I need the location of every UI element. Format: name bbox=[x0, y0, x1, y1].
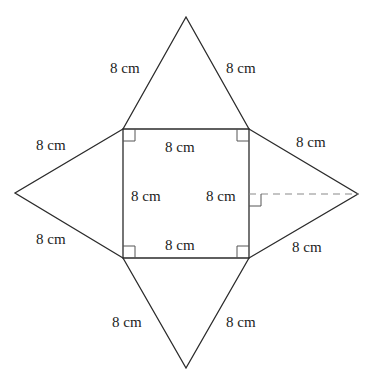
right-angle-mark-bottom-right bbox=[237, 246, 249, 258]
label-square-top: 8 cm bbox=[165, 139, 195, 155]
right-angle-mark-top-right bbox=[237, 129, 249, 141]
bottom-triangle bbox=[123, 258, 249, 368]
label-square-right: 8 cm bbox=[206, 188, 236, 204]
label-square-left: 8 cm bbox=[131, 188, 161, 204]
label-bottom-left-edge: 8 cm bbox=[112, 314, 142, 330]
label-left-lower-edge: 8 cm bbox=[36, 231, 66, 247]
left-triangle bbox=[15, 129, 123, 258]
pyramid-net-diagram: 8 cm 8 cm 8 cm 8 cm 8 cm 8 cm 8 cm 8 cm … bbox=[0, 0, 384, 372]
label-square-bottom: 8 cm bbox=[165, 237, 195, 253]
label-right-lower-edge: 8 cm bbox=[292, 239, 322, 255]
right-angle-mark-top-left bbox=[123, 129, 135, 141]
right-angle-mark-height bbox=[249, 194, 261, 206]
right-angle-mark-bottom-left bbox=[123, 246, 135, 258]
label-left-upper-edge: 8 cm bbox=[36, 137, 66, 153]
label-bottom-right-edge: 8 cm bbox=[226, 314, 256, 330]
label-top-right-edge: 8 cm bbox=[226, 60, 256, 76]
label-top-left-edge: 8 cm bbox=[110, 60, 140, 76]
label-right-upper-edge: 8 cm bbox=[296, 134, 326, 150]
